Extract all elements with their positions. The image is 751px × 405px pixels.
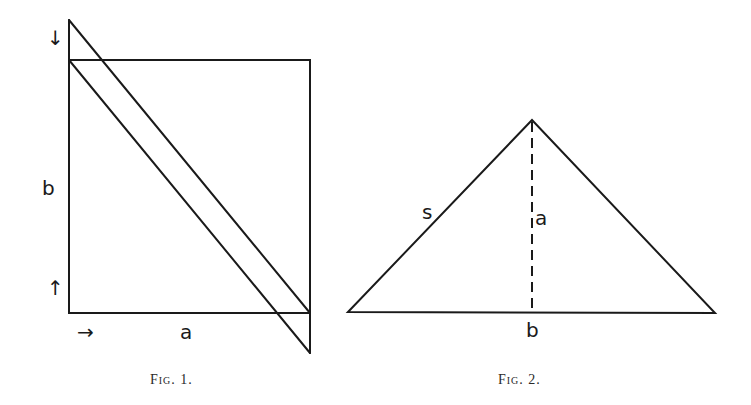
fig2-label-b: b <box>526 320 539 340</box>
fig2-caption: Fig. 2. <box>498 372 541 388</box>
up-arrow-icon: ↑ <box>47 278 64 298</box>
fig1-rectangle <box>69 60 310 313</box>
fig1-lower-diagonal <box>69 60 310 353</box>
right-arrow-icon: → <box>77 322 94 342</box>
fig1-label-a: a <box>180 322 192 342</box>
down-arrow-icon: ↓ <box>47 28 64 48</box>
fig2-label-s: s <box>422 202 432 222</box>
fig1-caption: Fig. 1. <box>150 372 193 388</box>
figure-1-drawing <box>69 20 310 353</box>
fig2-label-a: a <box>535 208 547 228</box>
figure-2-drawing <box>348 120 715 313</box>
diagram-canvas <box>0 0 751 405</box>
fig1-label-b: b <box>42 178 55 198</box>
fig1-upper-diagonal <box>69 20 310 313</box>
